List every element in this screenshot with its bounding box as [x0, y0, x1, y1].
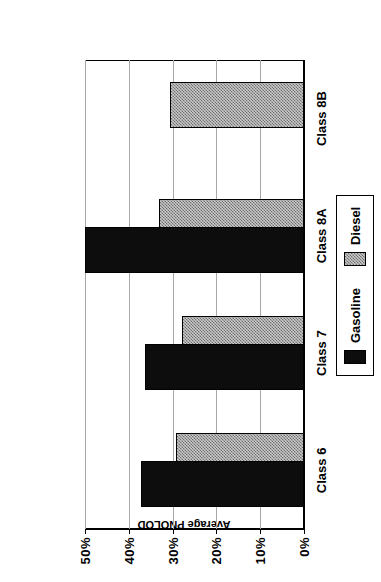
bar-group: Class 6 — [85, 412, 304, 529]
value-tick-label: 20% — [209, 537, 224, 565]
bar-gasoline — [85, 227, 304, 273]
bar-group: Class 7 — [85, 295, 304, 412]
legend-swatch-diesel — [344, 252, 366, 266]
value-tick-label: 0% — [297, 537, 312, 557]
category-label: Class 8B — [314, 60, 329, 177]
value-tick-label: 10% — [253, 537, 268, 565]
category-label: Class 7 — [314, 295, 329, 412]
value-tick-label: 50% — [78, 537, 93, 565]
legend-swatch-gasoline — [344, 350, 366, 364]
value-tick-label: 40% — [121, 537, 136, 565]
category-label: Class 6 — [314, 412, 329, 529]
axis-tick — [304, 529, 305, 534]
category-label: Class 8A — [314, 177, 329, 294]
chart-legend: Gasoline Diesel — [336, 195, 374, 376]
axis-tick — [85, 529, 86, 534]
axis-tick — [216, 529, 217, 534]
legend-entry-diesel: Diesel — [344, 207, 366, 266]
bar-diesel — [170, 82, 304, 128]
legend-label-diesel: Diesel — [348, 207, 363, 245]
plot-area: 50%40%30%20%10%0% Class 6Class 7Class 8A… — [85, 60, 305, 530]
bar-group: Class 8A — [85, 177, 304, 294]
bar-group: Class 8B — [85, 60, 304, 177]
legend-label-gasoline: Gasoline — [348, 288, 363, 343]
axis-tick — [173, 529, 174, 534]
axis-tick — [129, 529, 130, 534]
axis-tick — [260, 529, 261, 534]
bar-gasoline — [145, 344, 304, 390]
chart-rotation-stage: Average PNOLOD 50%40%30%20%10%0% Class 6… — [0, 0, 381, 582]
value-tick-label: 30% — [165, 537, 180, 565]
legend-entry-gasoline: Gasoline — [344, 288, 366, 364]
bar-gasoline — [141, 461, 304, 507]
bar-chart: Average PNOLOD 50%40%30%20%10%0% Class 6… — [0, 0, 381, 582]
